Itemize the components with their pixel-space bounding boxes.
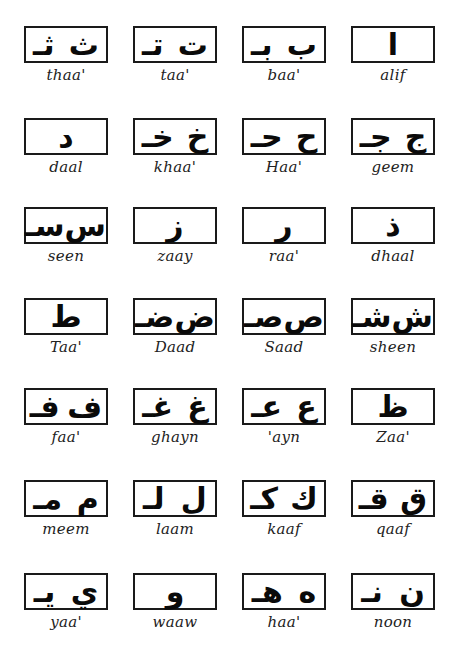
letter-forms-box: للـ [133, 480, 217, 517]
initial-form-glyph: هـ [252, 575, 283, 608]
isolated-form-glyph: غ [187, 390, 208, 423]
isolated-form-glyph: ن [399, 575, 425, 608]
isolated-form-glyph: ط [50, 300, 81, 333]
letter-card: ججـgeem [351, 118, 437, 198]
letter-forms-box: ننـ [351, 573, 435, 610]
letter-name-label: kaaf [242, 520, 326, 538]
isolated-form-glyph: ج [405, 120, 427, 153]
initial-form-glyph: تـ [142, 28, 164, 61]
initial-form-glyph: مـ [33, 482, 62, 515]
initial-form-glyph: ثـ [33, 28, 55, 61]
letter-card: اalif [351, 26, 437, 106]
letter-forms-box: و [133, 573, 217, 610]
letter-card: ييـyaa' [24, 573, 110, 653]
letter-card: زzaay [133, 207, 219, 287]
letter-name-label: seen [24, 247, 108, 265]
letter-name-label: alif [351, 66, 435, 84]
isolated-form-glyph: س [65, 209, 106, 242]
initial-form-glyph: نـ [361, 575, 383, 608]
letter-name-label: Haa' [242, 158, 326, 176]
letter-name-label: faa' [24, 428, 108, 446]
initial-form-glyph: لـ [143, 482, 165, 515]
letter-name-label: daal [24, 158, 108, 176]
letter-forms-box: ز [133, 207, 217, 244]
isolated-form-glyph: ذ [385, 209, 400, 242]
letter-card: ثثـthaa' [24, 26, 110, 106]
letter-card: تتـtaa' [133, 26, 219, 106]
letter-card: للـlaam [133, 480, 219, 560]
isolated-form-glyph: م [77, 482, 99, 515]
letter-name-label: Zaa' [351, 428, 435, 446]
letter-name-label: ghayn [133, 428, 217, 446]
letter-name-label: laam [133, 520, 217, 538]
letter-forms-box: سسـ [24, 207, 108, 244]
initial-form-glyph: ضـ [135, 300, 174, 333]
letter-card: ببـbaa' [242, 26, 328, 106]
letter-forms-box: ضضـ [133, 298, 217, 335]
letter-card: ههـhaa' [242, 573, 328, 653]
letter-forms-box: ظ [351, 388, 435, 425]
isolated-form-glyph: ل [181, 482, 207, 515]
isolated-form-glyph: ي [71, 575, 99, 608]
letter-forms-box: ممـ [24, 480, 108, 517]
letter-name-label: qaaf [351, 520, 435, 538]
letter-name-label: Saad [242, 338, 326, 356]
initial-form-glyph: خـ [142, 120, 174, 153]
letter-card: ننـnoon [351, 573, 437, 653]
letter-card: وwaaw [133, 573, 219, 653]
isolated-form-glyph: ح [296, 120, 318, 153]
initial-form-glyph: يـ [34, 575, 56, 608]
letter-name-label: Taa' [24, 338, 108, 356]
letter-forms-box: صصـ [242, 298, 326, 335]
initial-form-glyph: فـ [30, 390, 60, 423]
isolated-form-glyph: ث [69, 28, 99, 61]
letter-card: رraa' [242, 207, 328, 287]
isolated-form-glyph: ه [298, 575, 316, 608]
letter-name-label: haa' [242, 613, 326, 631]
letter-card: ذdhaal [351, 207, 437, 287]
isolated-form-glyph: ق [400, 482, 427, 515]
isolated-form-glyph: ا [388, 28, 398, 61]
letter-forms-box: ييـ [24, 573, 108, 610]
letter-forms-box: خخـ [133, 118, 217, 155]
letter-forms-box: ككـ [242, 480, 326, 517]
letter-card: غغـghayn [133, 388, 219, 468]
isolated-form-glyph: ر [275, 209, 292, 242]
letter-forms-box: ببـ [242, 26, 326, 63]
isolated-form-glyph: ع [296, 390, 317, 423]
letter-forms-box: ححـ [242, 118, 326, 155]
letter-card: خخـkhaa' [133, 118, 219, 198]
initial-form-glyph: غـ [142, 390, 173, 423]
letter-name-label: waaw [133, 613, 217, 631]
letter-forms-box: ر [242, 207, 326, 244]
letter-card: ككـkaaf [242, 480, 328, 560]
isolated-form-glyph: ب [287, 28, 317, 61]
initial-form-glyph: قـ [359, 482, 389, 515]
letter-name-label: sheen [351, 338, 435, 356]
isolated-form-glyph: ض [175, 300, 215, 333]
letter-name-label: raa' [242, 247, 326, 265]
letter-forms-box: ششـ [351, 298, 435, 335]
letter-name-label: zaay [133, 247, 217, 265]
initial-form-glyph: صـ [244, 300, 283, 333]
letter-card: ظZaa' [351, 388, 437, 468]
letter-card: ممـmeem [24, 480, 110, 560]
letter-card: ششـsheen [351, 298, 437, 378]
letter-card: ععـ'ayn [242, 388, 328, 468]
letter-name-label: baa' [242, 66, 326, 84]
letter-card: دdaal [24, 118, 110, 198]
letter-forms-box: ثثـ [24, 26, 108, 63]
initial-form-glyph: بـ [251, 28, 273, 61]
letter-name-label: thaa' [24, 66, 108, 84]
letter-card: ففـfaa' [24, 388, 110, 468]
letter-name-label: dhaal [351, 247, 435, 265]
letter-card: سسـseen [24, 207, 110, 287]
letter-card: ققـqaaf [351, 480, 437, 560]
letter-forms-box: ط [24, 298, 108, 335]
letter-forms-box: غغـ [133, 388, 217, 425]
isolated-form-glyph: ز [166, 209, 183, 242]
isolated-form-glyph: ف [67, 390, 102, 423]
letter-forms-box: د [24, 118, 108, 155]
initial-form-glyph: شـ [352, 300, 392, 333]
letter-name-label: noon [351, 613, 435, 631]
